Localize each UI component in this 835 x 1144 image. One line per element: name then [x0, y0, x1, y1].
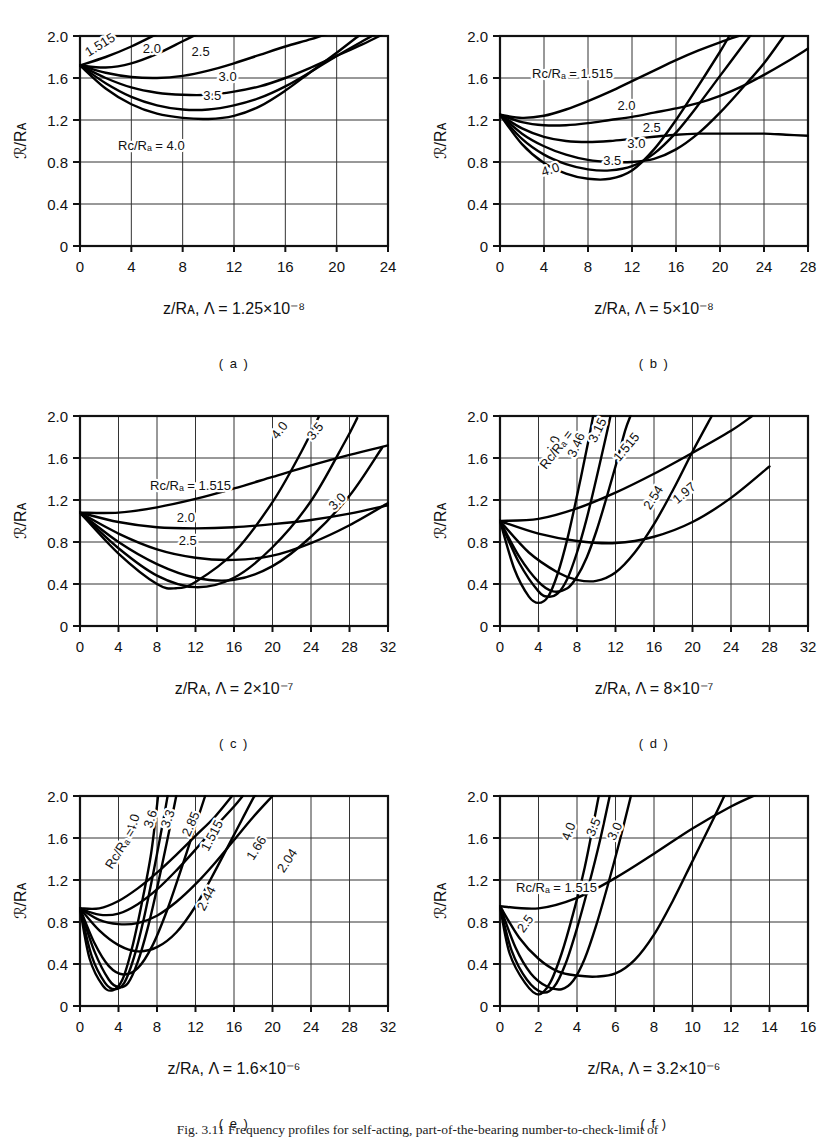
- x-tick-label: 20: [328, 258, 345, 275]
- x-tick-label: 0: [496, 638, 504, 655]
- x-axis-label: z/Rᴀ, Λ = 1.6×10⁻⁶: [168, 1060, 301, 1077]
- y-tick-label: 0: [480, 998, 488, 1015]
- curve-label-4.0: 4.0: [558, 820, 578, 842]
- curve-label-2.5: 2.5: [514, 912, 537, 935]
- y-tick-label: 1.6: [47, 70, 68, 87]
- y-tick-label: 1.2: [47, 112, 68, 129]
- panel-caption: ( c ): [219, 736, 249, 751]
- curve-label-2.0: 2.0: [177, 510, 195, 525]
- curve-4.0: [80, 417, 319, 589]
- x-tick-label: 16: [226, 1018, 243, 1035]
- y-tick-label: 1.6: [47, 830, 68, 847]
- panel-caption: ( d ): [639, 736, 670, 751]
- x-tick-label: 32: [800, 638, 817, 655]
- x-tick-label: 20: [712, 258, 729, 275]
- x-tick-label: 4: [534, 638, 542, 655]
- chart-panel-b: 2.02.02.52.53.03.03.53.54.04.0Rᴄ/Rₐ = 1.…: [420, 0, 820, 380]
- x-tick-label: 8: [153, 1018, 161, 1035]
- chart-svg-c: 2.02.02.52.53.03.03.53.54.04.0Rᴄ/Rₐ = 1.…: [0, 380, 400, 760]
- curve-label-1.97: 1.97: [670, 479, 699, 507]
- y-tick-label: 0.4: [467, 576, 488, 593]
- y-tick-label: 0.8: [467, 914, 488, 931]
- y-tick-label: 0.4: [467, 196, 488, 213]
- curve-labels: 2.52.53.03.03.53.54.04.0: [514, 816, 625, 935]
- x-tick-label: 16: [646, 638, 663, 655]
- legend-prefix: Rᴄ/Rₐ = 1.515Rᴄ/Rₐ = 1.515: [150, 478, 231, 493]
- x-tick-label: 4: [114, 1018, 122, 1035]
- y-tick-label: 2.0: [467, 28, 488, 45]
- x-tick-label: 2: [534, 1018, 542, 1035]
- curve-label-1.515: 1.515: [610, 430, 642, 465]
- x-tick-label: 0: [76, 1018, 84, 1035]
- legend-prefix-text: Rᴄ/Rₐ = 1.515: [516, 880, 597, 895]
- curve-label-2.44: 2.44: [194, 884, 219, 913]
- y-tick-label: 0.4: [467, 956, 488, 973]
- x-tick-label: 4: [114, 638, 122, 655]
- x-tick-label: 16: [277, 258, 294, 275]
- figure-caption: Fig. 3.11 Frequency profiles for self-ac…: [0, 1122, 835, 1144]
- figure-container: 1.5151.5152.02.02.52.53.03.03.53.5Rᴄ/Rₐ …: [0, 0, 835, 1144]
- y-tick-label: 2.0: [47, 28, 68, 45]
- curve-label-3.3: 3.3: [157, 808, 177, 830]
- y-tick-label: 0.8: [47, 154, 68, 171]
- curve-label-4.0: 4.0: [268, 418, 291, 441]
- legend-prefix: Rᴄ/Rₐ = 1.515Rᴄ/Rₐ = 1.515: [516, 880, 597, 895]
- y-tick-label: 0.4: [47, 196, 68, 213]
- y-axis-label: ℛ/Rᴀ: [12, 122, 29, 159]
- x-tick-label: 20: [264, 1018, 281, 1035]
- legend-prefix-text: Rᴄ/Rₐ = 4.0: [118, 138, 185, 153]
- curve-1.97: [500, 466, 770, 543]
- panel-caption: ( b ): [639, 356, 670, 371]
- y-axis-label: ℛ/Rᴀ: [432, 882, 449, 919]
- x-tick-label: 12: [723, 1018, 740, 1035]
- x-tick-label: 16: [668, 258, 685, 275]
- x-tick-label: 14: [761, 1018, 778, 1035]
- curve-label-3.0: 3.0: [219, 69, 237, 84]
- x-tick-label: 12: [187, 638, 204, 655]
- x-tick-label: 12: [226, 258, 243, 275]
- y-tick-label: 0.8: [47, 914, 68, 931]
- legend-prefix: Rᴄ/Rₐ =Rᴄ/Rₐ =: [102, 826, 139, 872]
- curve-label-2.0: 2.0: [617, 98, 635, 113]
- legend-prefix: Rᴄ/Rₐ = 1.515Rᴄ/Rₐ = 1.515: [532, 66, 613, 81]
- chart-panel-f: 2.52.53.03.03.53.54.04.0Rᴄ/Rₐ = 1.515Rᴄ/…: [420, 760, 820, 1140]
- x-tick-label: 4: [573, 1018, 581, 1035]
- y-tick-label: 1.6: [467, 830, 488, 847]
- y-axis-label: ℛ/Rᴀ: [432, 122, 449, 159]
- curves-group: [500, 35, 808, 180]
- curve-label-3.5: 3.5: [203, 88, 221, 103]
- chart-panel-c: 2.02.02.52.53.03.03.53.54.04.0Rᴄ/Rₐ = 1.…: [0, 380, 400, 760]
- x-tick-label: 16: [226, 638, 243, 655]
- x-tick-label: 8: [650, 1018, 658, 1035]
- x-tick-label: 28: [341, 1018, 358, 1035]
- x-tick-label: 20: [264, 638, 281, 655]
- curve-labels: 2.02.02.52.53.03.03.53.54.04.0: [539, 98, 660, 180]
- curve-label-3.0: 3.0: [604, 820, 625, 843]
- y-tick-label: 1.6: [47, 450, 68, 467]
- x-tick-label: 4: [540, 258, 548, 275]
- chart-svg-f: 2.52.53.03.03.53.54.04.0Rᴄ/Rₐ = 1.515Rᴄ/…: [420, 760, 820, 1140]
- x-tick-label: 12: [624, 258, 641, 275]
- chart-panel-e: 1.5151.5151.661.662.042.042.442.442.852.…: [0, 760, 400, 1140]
- y-tick-label: 0: [480, 238, 488, 255]
- y-tick-label: 1.2: [47, 492, 68, 509]
- curve-label-3.0: 3.0: [627, 136, 645, 151]
- y-tick-label: 1.2: [467, 112, 488, 129]
- curve-label-3.0: 3.0: [325, 490, 348, 513]
- x-tick-label: 24: [380, 258, 397, 275]
- y-tick-label: 0.8: [467, 154, 488, 171]
- x-axis-label: z/Rᴀ, Λ = 8×10⁻⁷: [595, 680, 714, 697]
- chart-svg-a: 1.5151.5152.02.02.52.53.03.03.53.5Rᴄ/Rₐ …: [0, 0, 400, 380]
- x-tick-label: 8: [584, 258, 592, 275]
- x-axis-label: z/Rᴀ, Λ = 3.2×10⁻⁶: [588, 1060, 721, 1077]
- curve-label-2.5: 2.5: [192, 44, 210, 59]
- x-tick-label: 0: [76, 638, 84, 655]
- x-tick-label: 32: [380, 1018, 397, 1035]
- chart-panel-d: 1.5151.5151.971.972.542.543.153.153.463.…: [420, 380, 820, 760]
- x-tick-label: 6: [611, 1018, 619, 1035]
- y-tick-label: 0: [480, 618, 488, 635]
- x-axis-label: z/Rᴀ, Λ = 5×10⁻⁸: [594, 300, 714, 317]
- curve-label-2.0: 2.0: [143, 41, 161, 56]
- curve-3.5: [80, 418, 357, 587]
- y-tick-label: 2.0: [467, 788, 488, 805]
